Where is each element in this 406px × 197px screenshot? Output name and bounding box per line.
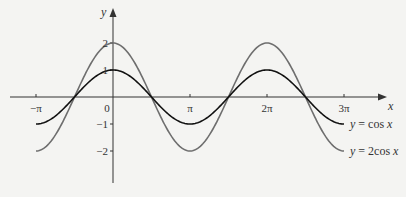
y-axis-arrow bbox=[110, 8, 117, 17]
x-tick-label: π bbox=[187, 102, 193, 114]
labels: xy−π0π2π3π21−1−2y = cos xy = 2cos x bbox=[30, 5, 399, 158]
y-tick-label: −2 bbox=[96, 145, 108, 157]
x-axis-arrow bbox=[378, 94, 387, 101]
axes bbox=[10, 8, 387, 183]
x-axis-label: x bbox=[387, 99, 394, 113]
y-tick-label: −1 bbox=[96, 118, 108, 130]
legend-label: y = 2cos x bbox=[349, 144, 399, 158]
x-tick-label: 2π bbox=[261, 102, 273, 114]
legend-label: y = cos x bbox=[349, 117, 393, 131]
y-axis-label: y bbox=[100, 5, 107, 19]
x-tick-label: −π bbox=[30, 102, 42, 114]
chart: xy−π0π2π3π21−1−2y = cos xy = 2cos x bbox=[0, 0, 406, 197]
x-tick-label: 0 bbox=[104, 102, 110, 114]
x-tick-label: 3π bbox=[338, 102, 350, 114]
y-tick-label: 2 bbox=[103, 37, 109, 49]
y-tick-label: 1 bbox=[103, 64, 109, 76]
